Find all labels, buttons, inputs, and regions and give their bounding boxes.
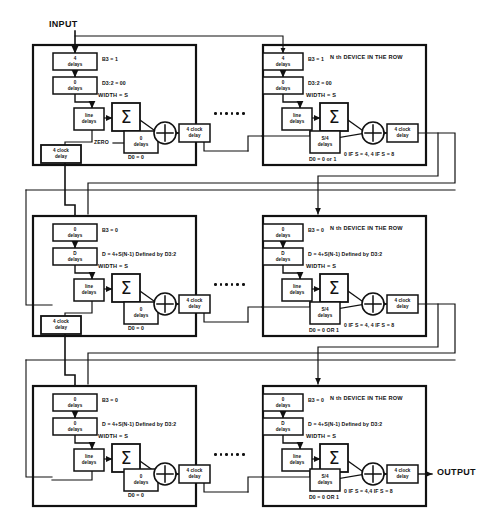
note-d-formula: D = 4+S(N-1) Defined by D3:2: [308, 422, 382, 427]
block-line-delays[interactable]: line delays: [74, 108, 104, 130]
ellipsis-row-2: [214, 283, 245, 286]
note-sum-condition: 0 IF S = 4, 4 IF S = 8: [344, 152, 394, 157]
note-d0: D0 = 0 OR 1: [309, 495, 339, 500]
note-d0: D0 = 0 or 1: [309, 157, 336, 162]
note-b3: B3 = 1: [102, 57, 118, 62]
block-summation[interactable]: Σ: [320, 274, 348, 302]
note-width: WIDTH = S: [306, 264, 336, 270]
note-width: WIDTH = S: [98, 93, 128, 99]
block-clock-delay[interactable]: 4 clock delay: [387, 295, 418, 313]
note-sum-condition: 0 IF S = 4, 4 IF S = 8: [344, 323, 394, 328]
diagram-canvas: INPUT OUTPUT 4 delays 0 delays line dela…: [0, 0, 489, 520]
block-clock-delay[interactable]: 4 clock delay: [179, 295, 210, 313]
block-top-delay[interactable]: 4 delays: [53, 53, 97, 70]
note-d0: D0 = 0: [128, 155, 144, 160]
block-feedback-clock-delay[interactable]: 4 clock delay: [41, 316, 81, 334]
output-label: OUTPUT: [437, 468, 476, 477]
block-summation[interactable]: Σ: [320, 103, 348, 131]
note-d0: D0 = 0 OR 1: [309, 328, 339, 333]
block-top-delay[interactable]: 4 delays: [263, 53, 303, 70]
note-d-formula: D = 4+S(N-1) Defined by D3:2: [102, 252, 176, 257]
block-summation[interactable]: Σ: [112, 444, 140, 472]
block-line-delays[interactable]: line delays: [282, 279, 312, 301]
block-lower-delay[interactable]: S/4 delays: [310, 469, 340, 491]
block-line-delays[interactable]: line delays: [74, 449, 104, 471]
block-feedback-clock-delay[interactable]: 4 clock delay: [41, 145, 81, 163]
note-d0: D0 = 0: [128, 326, 144, 331]
note-b3: B3 = 0: [308, 228, 324, 233]
note-b3: B3 = 0: [102, 398, 118, 403]
block-summation[interactable]: Σ: [112, 274, 140, 302]
input-label: INPUT: [49, 20, 78, 29]
block-summation[interactable]: Σ: [320, 444, 348, 472]
note-d32: D3:2 = 00: [102, 81, 126, 86]
note-zero: ZERO: [94, 140, 109, 145]
block-line-delays[interactable]: line delays: [282, 108, 312, 130]
note-width: WIDTH = S: [98, 264, 128, 270]
block-second-delay[interactable]: 0 delays: [263, 77, 303, 94]
note-width: WIDTH = S: [306, 93, 336, 99]
block-top-delay[interactable]: 0 delays: [53, 394, 97, 411]
device-heading: N th DEVICE IN THE ROW: [330, 226, 403, 232]
block-lower-delay[interactable]: 0 delays: [124, 469, 158, 491]
block-second-delay[interactable]: 0 delays: [53, 77, 97, 94]
ellipsis-row-1: [214, 112, 245, 115]
block-second-delay[interactable]: D delays: [53, 248, 97, 265]
block-lower-delay[interactable]: S/4 delays: [310, 131, 340, 153]
note-sum-condition: 0 IF S = 4,4 IF S = 8: [344, 489, 393, 494]
note-width: WIDTH = S: [306, 434, 336, 440]
block-line-delays[interactable]: line delays: [282, 449, 312, 471]
block-clock-delay[interactable]: 4 clock delay: [387, 124, 418, 142]
block-clock-delay[interactable]: 4 clock delay: [179, 124, 210, 142]
note-b3: B3 = 0: [308, 398, 324, 403]
block-lower-delay[interactable]: S/4 delays: [310, 302, 340, 324]
block-top-delay[interactable]: 0 delays: [263, 394, 303, 411]
device-heading: N th DEVICE IN THE ROW: [330, 396, 403, 402]
note-b3: B3 = 1: [308, 57, 324, 62]
block-line-delays[interactable]: line delays: [74, 279, 104, 301]
note-d32: D3:2 = 00: [308, 81, 332, 86]
block-summation[interactable]: Σ: [112, 103, 140, 131]
block-lower-delay[interactable]: 0 delays: [124, 131, 158, 153]
block-lower-delay[interactable]: 0 delays: [124, 302, 158, 324]
note-b3: B3 = 0: [102, 228, 118, 233]
block-top-delay[interactable]: 0 delays: [53, 224, 97, 241]
block-clock-delay[interactable]: 4 clock delay: [387, 465, 418, 483]
note-d0: D0 = 0: [128, 493, 144, 498]
note-d-formula: D = 4+S(N-1) Defined by D3:2: [102, 422, 176, 427]
block-clock-delay[interactable]: 4 clock delay: [179, 465, 210, 483]
block-second-delay[interactable]: D delays: [263, 248, 303, 265]
block-second-delay[interactable]: D delays: [263, 418, 303, 435]
ellipsis-row-3: [214, 453, 245, 456]
block-second-delay[interactable]: 0 delays: [53, 418, 97, 435]
device-heading: N th DEVICE IN THE ROW: [330, 55, 403, 61]
note-width: WIDTH = S: [98, 434, 128, 440]
note-d-formula: D = 4+S(N-1) Defined by D3:2: [308, 252, 382, 257]
block-top-delay[interactable]: 0 delays: [263, 224, 303, 241]
